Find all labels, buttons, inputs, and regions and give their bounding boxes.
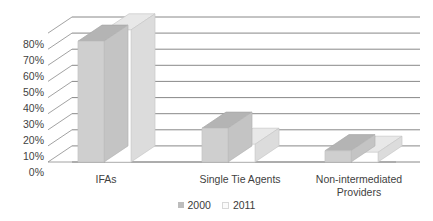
bar-chart: 80% 70% 60% 50% 40% 30% 20% 10% 0% IFAs … (0, 0, 433, 221)
legend-swatch-2011-icon (222, 202, 229, 209)
chart-legend: 2000 2011 (0, 199, 433, 211)
legend-label-2000: 2000 (188, 199, 211, 211)
x-tick-label-ifas: IFAs (66, 173, 146, 186)
legend-item-2000[interactable]: 2000 (178, 199, 211, 211)
x-tick-label-single-tie-agents: Single Tie Agents (180, 173, 300, 186)
legend-item-2011[interactable]: 2011 (222, 199, 256, 211)
x-tick-label-non-intermediated-providers: Non-intermediated Providers (296, 173, 422, 198)
legend-swatch-2000-icon (178, 202, 184, 208)
legend-label-2011: 2011 (233, 199, 256, 211)
x-axis-labels: IFAs Single Tie Agents Non-intermediated… (0, 0, 433, 221)
